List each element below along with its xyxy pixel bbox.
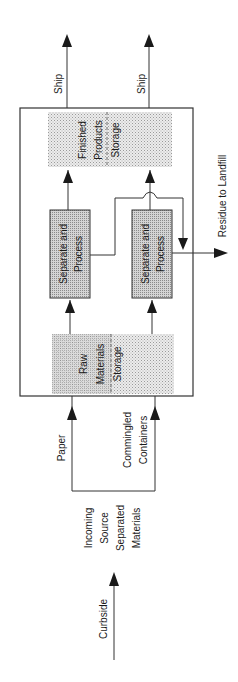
incoming-label-3: Separated [115,505,126,551]
raw-label-3: Storage [112,346,123,381]
arrow-up-icon [150,406,160,420]
finished-label-2: Products [93,120,104,159]
finished-label-3: Storage [110,122,121,157]
sep-paper-label-2: Process [73,236,84,272]
arrow-up-icon [109,572,119,586]
arrow-up-icon [65,300,75,313]
raw-label-2: Materials [95,344,106,385]
arrow-up-icon [147,300,157,313]
incoming-label-4: Materials [131,508,142,549]
separate-process-containers-node [132,210,172,298]
raw-label-1: Raw [78,353,89,374]
arrow-down-icon [178,238,188,250]
ship-label: Ship [53,74,64,94]
ship-label: Ship [136,74,147,94]
arrow-up-icon [62,34,72,47]
commingled-label-1: Commingled [122,412,133,468]
incoming-label-2: Source [99,512,110,544]
flow-diagram: Ship Ship Finished Products Storage Sepa… [0,0,238,682]
separate-process-paper-node [50,210,90,298]
finished-label-1: Finished [77,121,88,159]
sep-cont-label-1: Separate and [140,224,151,284]
arrow-up-icon [145,170,155,183]
arrow-right-icon [214,248,228,258]
sep-paper-label-1: Separate and [58,224,69,284]
incoming-label-1: Incoming [83,508,94,549]
paper-label: Paper [56,434,67,461]
residue-label: Residue to Landfill [217,155,228,237]
arrow-up-icon [144,34,154,47]
commingled-label-2: Containers [138,416,149,464]
sep-cont-label-2: Process [155,236,166,272]
curbside-label: Curbside [98,599,109,639]
arrow-up-icon [63,170,73,183]
arrow-up-icon [67,406,77,420]
